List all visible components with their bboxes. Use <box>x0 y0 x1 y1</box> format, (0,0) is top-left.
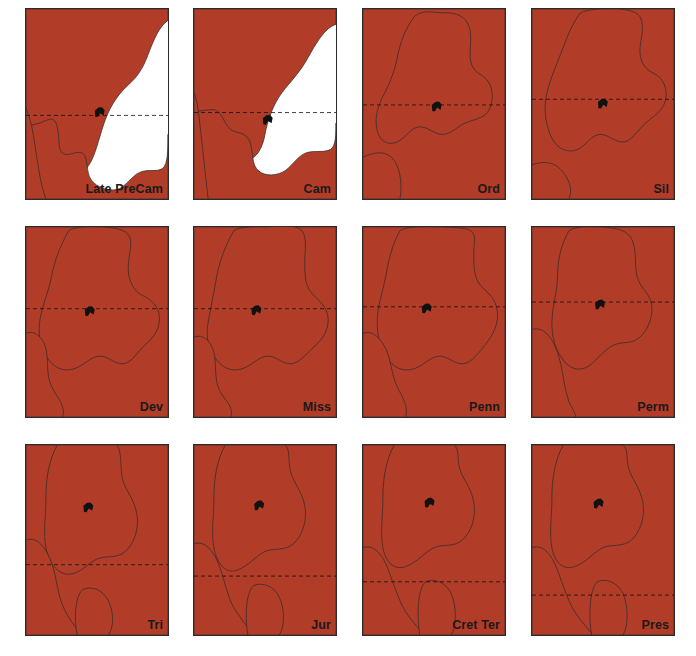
paleogeographic-map-figure: Late PreCamCamOrdSilDevMissPennPermTriJu… <box>0 0 696 656</box>
panel-label-sil: Sil <box>531 183 675 196</box>
sea-area <box>363 227 505 417</box>
map-panel-pres <box>531 444 675 636</box>
panel-label-miss: Miss <box>193 401 337 414</box>
map-graphic-jur <box>194 445 336 635</box>
map-panel-dev <box>25 226 169 418</box>
map-panel-miss <box>193 226 337 418</box>
panel-label-perm: Perm <box>531 401 675 414</box>
map-panel-sil <box>531 8 675 200</box>
map-graphic-ord <box>363 9 505 199</box>
map-graphic-pres <box>532 445 674 635</box>
map-panel-late-precam <box>25 8 169 200</box>
map-graphic-sil <box>532 9 674 199</box>
sea-area <box>26 445 168 635</box>
map-panel-jur <box>193 444 337 636</box>
map-graphic-cam <box>194 9 336 199</box>
sea-area <box>532 227 674 417</box>
panel-label-ord: Ord <box>362 183 506 196</box>
panel-label-cret-ter: Cret Ter <box>362 619 506 632</box>
figure-caption <box>28 644 228 656</box>
panel-label-dev: Dev <box>25 401 169 414</box>
sea-area <box>363 445 505 635</box>
panel-label-pres: Pres <box>531 619 675 632</box>
map-graphic-late-precam <box>26 9 168 199</box>
panel-label-late-precam: Late PreCam <box>25 183 169 196</box>
panel-label-penn: Penn <box>362 401 506 414</box>
map-graphic-tri <box>26 445 168 635</box>
map-graphic-cret-ter <box>363 445 505 635</box>
map-panel-penn <box>362 226 506 418</box>
sea-area <box>532 445 674 635</box>
panel-label-tri: Tri <box>25 619 169 632</box>
panel-label-jur: Jur <box>193 619 337 632</box>
map-panel-tri <box>25 444 169 636</box>
panel-label-cam: Cam <box>193 183 337 196</box>
map-panel-cam <box>193 8 337 200</box>
map-panel-ord <box>362 8 506 200</box>
sea-area <box>194 227 336 417</box>
map-graphic-dev <box>26 227 168 417</box>
map-graphic-perm <box>532 227 674 417</box>
map-graphic-penn <box>363 227 505 417</box>
map-panel-perm <box>531 226 675 418</box>
sea-area <box>194 445 336 635</box>
map-panel-cret-ter <box>362 444 506 636</box>
sea-area <box>26 227 168 417</box>
map-graphic-miss <box>194 227 336 417</box>
